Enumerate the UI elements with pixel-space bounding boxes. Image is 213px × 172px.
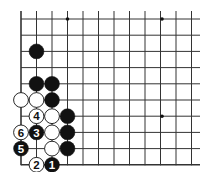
white-stone [45, 109, 60, 124]
black-stone-5: 5 [14, 141, 29, 156]
stones-layer: 463521 [14, 44, 75, 172]
go-board-diagram: 463521 [0, 0, 213, 172]
black-stone-1: 1 [45, 157, 60, 172]
black-stone [29, 76, 44, 91]
move-number: 5 [18, 143, 25, 155]
move-number: 6 [18, 127, 24, 139]
black-stone [29, 44, 44, 59]
white-stone [29, 93, 44, 108]
move-number: 2 [33, 159, 39, 171]
black-stone [60, 125, 75, 140]
white-stone [45, 141, 60, 156]
black-stone [60, 109, 75, 124]
white-stone-4: 4 [29, 109, 44, 124]
white-stone-6: 6 [14, 125, 29, 140]
star-point [160, 17, 164, 21]
move-number: 3 [33, 127, 39, 139]
move-number: 4 [33, 110, 40, 122]
black-stone [60, 141, 75, 156]
black-stone [45, 93, 60, 108]
white-stone [14, 93, 29, 108]
black-stone-3: 3 [29, 125, 44, 140]
star-point [160, 114, 164, 118]
white-stone [45, 125, 60, 140]
white-stone-2: 2 [29, 157, 44, 172]
star-point [66, 17, 70, 21]
move-number: 1 [49, 159, 56, 171]
black-stone [45, 76, 60, 91]
